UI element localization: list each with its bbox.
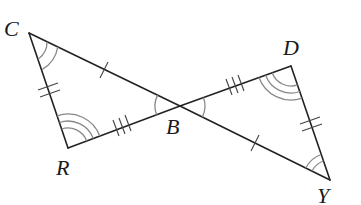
edge-CR <box>29 33 68 148</box>
angle-Y-arc-2 <box>306 155 321 169</box>
vertex-label-C: C <box>4 16 19 41</box>
vertex-label-R: R <box>55 155 70 180</box>
tick-RB-3 <box>125 115 131 131</box>
tick-RB-1 <box>113 120 119 136</box>
tick-BY-1 <box>251 135 259 151</box>
vertex-label-B: B <box>166 114 179 139</box>
triangle-diagram: C R B D Y <box>0 0 361 205</box>
tick-RB-2 <box>119 118 125 134</box>
vertex-label-D: D <box>282 35 299 60</box>
angle-Y-arc-1 <box>312 161 324 171</box>
angle-C-arc-1 <box>39 42 47 59</box>
angle-B-right-arc <box>202 98 205 118</box>
angle-C-arc-2 <box>42 47 58 70</box>
angle-B-left-arc <box>155 95 158 115</box>
vertex-label-Y: Y <box>317 183 332 205</box>
